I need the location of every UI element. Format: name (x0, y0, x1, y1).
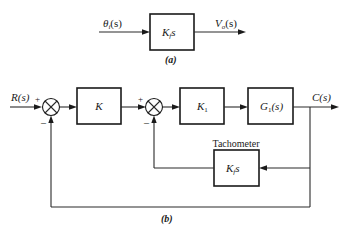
tachometer-title: Tachometer (212, 138, 260, 149)
arrowhead-icon (238, 29, 246, 34)
summing-junction-1 (43, 99, 60, 116)
gain-k-label: K (94, 100, 103, 112)
block-diagram-canvas: θi(s) Kfs Vo(s) (a) R(s) + – K + – (0, 0, 349, 230)
summer1-plus: + (35, 94, 40, 104)
arrowhead-icon (259, 165, 267, 170)
c-output-label: C(s) (312, 91, 331, 104)
block-a-label: Kfs (161, 26, 176, 40)
arrowhead-icon (69, 104, 77, 109)
diagram-a: θi(s) Kfs Vo(s) (a) (99, 14, 246, 66)
tachometer-label: Kfs (225, 162, 240, 176)
theta-input-label: θi(s) (103, 17, 122, 31)
caption-a: (a) (165, 54, 177, 66)
diagram-b: R(s) + – K + – K1 (10, 88, 339, 225)
arrowhead-icon (172, 104, 180, 109)
caption-b: (b) (161, 213, 173, 225)
r-input-label: R(s) (10, 91, 30, 104)
summing-junction-2 (146, 99, 163, 116)
vo-output-label: Vo(s) (215, 17, 237, 31)
arrowhead-icon (240, 104, 248, 109)
summer2-minus: – (143, 117, 150, 128)
arrowhead-icon (138, 104, 146, 109)
plant-g1-label: G1(s) (260, 100, 283, 114)
summer1-minus: – (40, 117, 47, 128)
arrowhead-icon (142, 29, 150, 34)
arrowhead-icon (331, 104, 339, 109)
summer2-plus: + (138, 94, 143, 104)
arrowhead-icon (151, 116, 156, 124)
arrowhead-icon (34, 104, 42, 109)
arrowhead-icon (48, 116, 53, 124)
